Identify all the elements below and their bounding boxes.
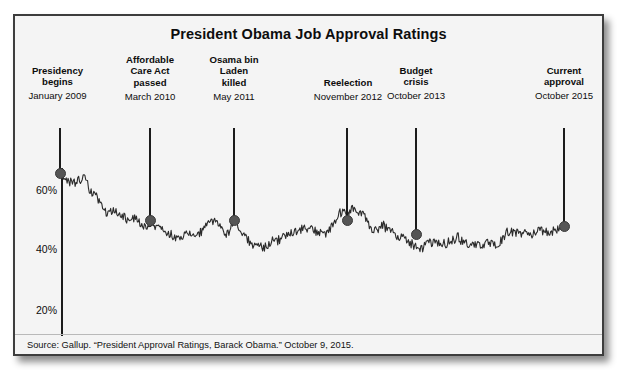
annotation-date: October 2015 (518, 90, 610, 102)
annotation-affordable-care-act: Affordable Care Act passed March 2010 (104, 54, 196, 103)
annotation-date: May 2011 (188, 91, 280, 103)
annotation-date: January 2009 (10, 90, 105, 102)
annotation-label: Budget crisis (370, 65, 462, 88)
annotation-marker-dot (145, 215, 156, 226)
annotation-label: Presidency begins (10, 65, 105, 88)
annotation-budget-crisis: Budget crisis October 2013 (370, 65, 462, 102)
annotation-marker-dot (55, 168, 66, 179)
source-divider (15, 334, 602, 335)
annotation-leader-line (149, 128, 151, 220)
annotation-leader-line (415, 128, 417, 234)
annotation-label: Osama bin Laden killed (188, 54, 280, 88)
annotation-label: Affordable Care Act passed (104, 54, 196, 88)
annotation-marker-dot (229, 215, 240, 226)
annotation-marker-dot (559, 221, 570, 232)
annotation-leader-line (346, 128, 348, 220)
annotation-marker-dot (342, 215, 353, 226)
annotation-bin-laden-killed: Osama bin Laden killed May 2011 (188, 54, 280, 103)
annotation-current-approval: Current approval October 2015 (518, 65, 610, 102)
annotation-presidency-begins: Presidency begins January 2009 (10, 65, 105, 102)
source-citation: Source: Gallup. “President Approval Rati… (27, 340, 354, 350)
annotation-marker-dot (411, 229, 422, 240)
chart-figure: President Obama Job Approval Ratings 60%… (13, 14, 604, 356)
annotation-leader-line (563, 128, 565, 226)
annotation-label: Current approval (518, 65, 610, 88)
annotation-leader-line (233, 128, 235, 220)
annotation-date: March 2010 (104, 91, 196, 103)
annotation-date: October 2013 (370, 90, 462, 102)
